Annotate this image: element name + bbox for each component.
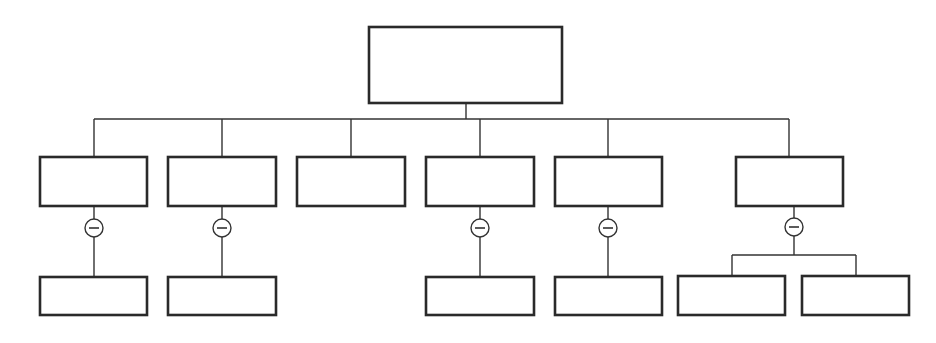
node-level1-6[interactable] xyxy=(736,157,843,206)
node-level1-2[interactable] xyxy=(168,157,276,206)
collapse-toggle-n2[interactable] xyxy=(213,219,231,237)
node-level2-1[interactable] xyxy=(40,277,147,315)
collapse-toggle-n5[interactable] xyxy=(599,219,617,237)
node-level1-4[interactable] xyxy=(426,157,534,206)
node-level2-6b[interactable] xyxy=(802,276,909,315)
node-level1-3[interactable] xyxy=(297,157,405,206)
collapse-toggle-n6[interactable] xyxy=(785,218,803,236)
root-node[interactable] xyxy=(369,27,562,103)
node-level2-6a[interactable] xyxy=(678,276,785,315)
collapse-toggle-n1[interactable] xyxy=(85,219,103,237)
org-tree-diagram xyxy=(0,0,936,343)
node-level2-2[interactable] xyxy=(168,277,276,315)
collapse-toggle-n4[interactable] xyxy=(471,219,489,237)
node-level2-5[interactable] xyxy=(555,277,662,315)
node-level2-4[interactable] xyxy=(426,277,534,315)
node-level1-1[interactable] xyxy=(40,157,147,206)
node-level1-5[interactable] xyxy=(555,157,662,206)
